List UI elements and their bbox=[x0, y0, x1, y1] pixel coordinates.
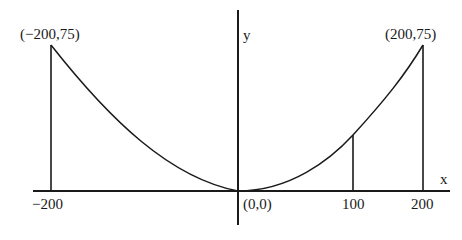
x-tick-neg200: −200 bbox=[32, 197, 63, 212]
y-axis-label: y bbox=[243, 28, 251, 43]
x-tick-100: 100 bbox=[342, 197, 365, 212]
right-endpoint-label: (200,75) bbox=[385, 27, 436, 42]
left-endpoint-label: (−200,75) bbox=[20, 27, 80, 42]
x-tick-200: 200 bbox=[411, 197, 434, 212]
origin-label: (0,0) bbox=[243, 197, 272, 212]
x-axis-label: x bbox=[440, 172, 448, 187]
